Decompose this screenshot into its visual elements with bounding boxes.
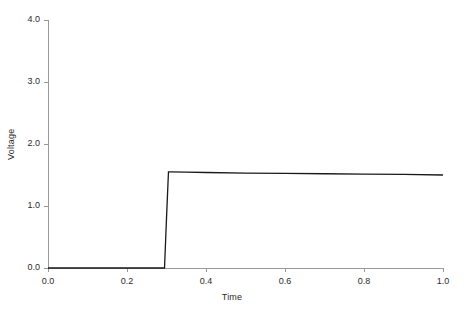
data-series [48, 172, 443, 268]
axes [44, 20, 443, 272]
series-line [48, 172, 443, 268]
plot-area [0, 0, 464, 318]
voltage-vs-time-chart: Voltage Time 0.01.02.03.04.0 0.00.20.40.… [0, 0, 464, 318]
